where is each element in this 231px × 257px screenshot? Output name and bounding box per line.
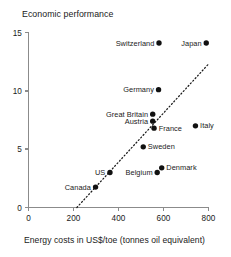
data-point-label: Canada — [65, 183, 92, 192]
x-tick-label: 400 — [112, 214, 126, 223]
x-tick-label: 600 — [157, 214, 171, 223]
data-point-label: Japan — [181, 39, 201, 48]
data-point: Belgium — [126, 168, 160, 177]
data-point-marker — [159, 165, 164, 170]
data-points-layer: SwitzerlandJapanGermanyGreat BritainAust… — [65, 39, 214, 192]
chart-figure: Economic performance 15 10 5 0 0 — [0, 0, 231, 257]
data-point: Germany — [123, 85, 161, 94]
data-point-marker — [156, 87, 161, 92]
x-axis-tick-labels: 0 200 400 600 800 — [26, 214, 216, 223]
data-point: France — [151, 124, 182, 133]
data-point-marker — [93, 184, 98, 189]
x-tick-label: 200 — [67, 214, 81, 223]
data-point: Italy — [193, 121, 214, 130]
data-point-marker — [150, 111, 155, 116]
data-point-label: Belgium — [126, 168, 153, 177]
data-point: Switzerland — [116, 39, 162, 48]
page-title: Economic performance — [22, 9, 114, 19]
data-point: Canada — [65, 183, 99, 192]
data-point: Denmark — [159, 163, 197, 172]
data-point-label: Germany — [123, 85, 154, 94]
data-point-marker — [151, 125, 156, 130]
data-point-marker — [193, 123, 198, 128]
data-point-label: Sweden — [148, 142, 175, 151]
data-point-label: Austria — [125, 117, 149, 126]
data-point-marker — [107, 170, 112, 175]
data-point-marker — [155, 170, 160, 175]
y-axis-tick-labels: 15 10 5 0 — [13, 29, 23, 213]
y-tick-label: 0 — [17, 204, 22, 213]
data-point: Sweden — [141, 142, 175, 151]
data-point-marker — [156, 40, 161, 45]
scatter-plot: Economic performance 15 10 5 0 0 — [0, 0, 231, 257]
data-point-marker — [204, 40, 209, 45]
data-point: Austria — [125, 117, 156, 126]
data-point: Japan — [181, 39, 209, 48]
data-point-label: Denmark — [166, 163, 197, 172]
data-point-label: Switzerland — [116, 39, 155, 48]
data-point: US — [95, 168, 113, 177]
x-tick-label: 800 — [202, 214, 216, 223]
x-tick-label: 0 — [26, 214, 31, 223]
data-point-label: Italy — [200, 121, 214, 130]
y-tick-label: 10 — [13, 87, 23, 96]
data-point-label: France — [159, 124, 182, 133]
y-tick-label: 5 — [17, 145, 22, 154]
data-point-marker — [141, 144, 146, 149]
data-point-label: US — [95, 168, 105, 177]
x-axis-title: Energy costs in US$/toe (tonnes oil equi… — [24, 235, 205, 245]
y-tick-label: 15 — [13, 29, 23, 38]
data-point-marker — [150, 118, 155, 123]
